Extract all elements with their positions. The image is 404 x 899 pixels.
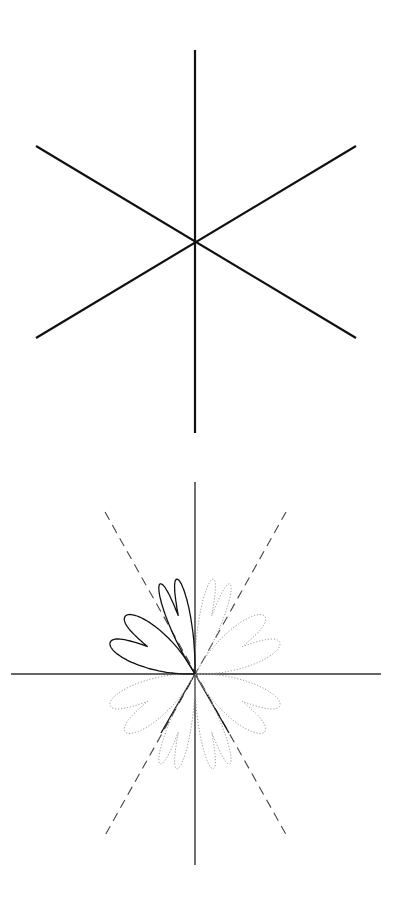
dotted-heart-lobe xyxy=(195,674,231,769)
dotted-heart-lobe xyxy=(159,674,195,769)
dotted-heart-lobe xyxy=(195,579,231,674)
heart-lobe-rosette-figure xyxy=(0,0,404,899)
solid-ray-segment xyxy=(195,674,229,733)
dashed-line xyxy=(105,512,288,838)
dotted-heart-lobe xyxy=(195,615,280,675)
dotted-heart-lobe xyxy=(195,674,280,734)
solid-heart-lobe xyxy=(159,579,195,674)
solid-heart-lobe xyxy=(110,615,195,675)
dotted-heart-lobe xyxy=(110,674,195,734)
solid-heart-lobes xyxy=(110,579,195,674)
